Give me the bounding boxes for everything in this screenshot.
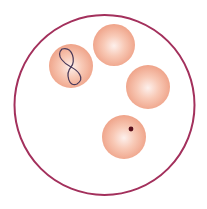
red-blood-cell — [102, 115, 146, 159]
microscope-field-figure: Microscope field with four red blood cel… — [0, 0, 207, 209]
red-blood-cell — [93, 24, 135, 66]
figure-canvas — [0, 0, 207, 209]
red-blood-cell — [126, 65, 170, 109]
cell-normal-2 — [126, 65, 170, 109]
cell-howell-jolly — [102, 115, 146, 159]
howell-jolly-body — [129, 127, 134, 132]
cell-normal-1 — [93, 24, 135, 66]
red-blood-cell — [49, 44, 93, 88]
cell-cabot-ring — [49, 44, 93, 88]
